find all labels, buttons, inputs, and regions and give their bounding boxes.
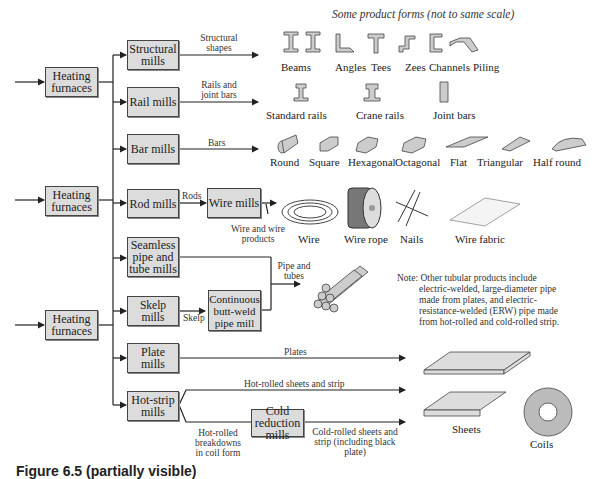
flow-plates: Plates <box>284 347 307 357</box>
product-half-round: Half round <box>533 156 581 168</box>
plates-sheets-coils-icon <box>420 350 594 450</box>
cold-reduction-mills: Cold reduction mills <box>251 409 304 437</box>
product-nails: Nails <box>400 233 423 245</box>
flow-rods: Rods <box>182 191 202 201</box>
plate-mills: Plate mills <box>127 343 179 373</box>
product-standard-rails: Standard rails <box>266 109 327 121</box>
flow-cold-rolled: Cold-rolled sheets and strip (including … <box>312 427 398 457</box>
product-angles: Angles <box>335 61 366 73</box>
product-piling: Piling <box>473 61 499 73</box>
product-channels: Channels <box>429 61 470 73</box>
flow-hot-rolled-sheets: Hot-rolled sheets and strip <box>244 379 345 389</box>
butt-weld-pipe-mill: Continuous butt-weld pipe mill <box>208 290 261 331</box>
tubular-note: Note: Other tubular products include ele… <box>397 273 559 328</box>
product-triangular: Triangular <box>477 156 523 168</box>
flow-skelp: Skelp <box>183 313 205 323</box>
product-round: Round <box>270 156 299 168</box>
product-beams: Beams <box>281 61 311 73</box>
product-flat: Flat <box>450 156 467 168</box>
wire-products-icon <box>280 182 530 234</box>
hot-strip-mills: Hot-strip mills <box>127 391 179 421</box>
product-octagonal: Octagonal <box>395 156 440 168</box>
flow-wire-products: Wire and wire products <box>228 224 288 244</box>
product-square: Square <box>309 156 340 168</box>
structural-mills: Structural mills <box>127 40 179 70</box>
product-zees: Zees <box>405 61 426 73</box>
heating-furnace-1: Heating furnaces <box>45 67 98 97</box>
skelp-mills: Skelp mills <box>127 296 179 326</box>
pipes-icon <box>310 258 380 314</box>
product-wire-fabric: Wire fabric <box>455 233 505 245</box>
flow-pipe-tubes: Pipe and tubes <box>277 261 311 281</box>
structural-shapes-icon <box>280 28 590 58</box>
rails-icon <box>290 80 460 106</box>
product-coils: Coils <box>530 438 553 450</box>
product-wire-rope: Wire rope <box>344 233 388 245</box>
bar-shapes-icon <box>276 133 594 155</box>
flow-hot-rolled-breakdowns: Hot-rolled breakdowns in coil form <box>192 428 244 458</box>
product-sheets: Sheets <box>452 423 481 435</box>
flow-bars: Bars <box>208 138 225 148</box>
rod-mills: Rod mills <box>127 189 179 218</box>
seamless-pipe-tube-mills: Seamless pipe and tube mills <box>127 237 179 277</box>
heating-furnace-3: Heating furnaces <box>45 310 98 340</box>
flow-rails-joint-bars: Rails and joint bars <box>197 80 241 100</box>
bar-mills: Bar mills <box>127 134 179 164</box>
product-tees: Tees <box>371 61 391 73</box>
product-hexagonal: Hexagonal <box>348 156 396 168</box>
figure-caption: Figure 6.5 (partially visible) <box>16 463 197 479</box>
diagram-title: Some product forms (not to same scale) <box>332 8 514 20</box>
flow-structural-shapes: Structural shapes <box>197 33 241 53</box>
rail-mills: Rail mills <box>127 87 179 117</box>
wire-mills: Wire mills <box>207 188 261 218</box>
product-crane-rails: Crane rails <box>356 109 404 121</box>
product-joint-bars: Joint bars <box>433 109 475 121</box>
heating-furnace-2: Heating furnaces <box>45 186 98 216</box>
product-wire: Wire <box>298 233 320 245</box>
